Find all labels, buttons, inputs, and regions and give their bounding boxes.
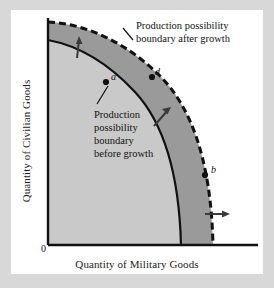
annotation-after-growth: Production possibility boundary after gr… [136, 20, 230, 45]
point-b-label: b [211, 164, 216, 175]
annotation-after-growth-line1: Production possibility [136, 20, 230, 33]
annotation-before-growth-line2: possibility [94, 121, 153, 134]
x-axis-label: Quantity of Military Goods [0, 258, 274, 270]
annotation-before-growth-line4: before growth [94, 147, 153, 160]
point-b-marker [202, 172, 208, 178]
y-axis-label: Quantity of Civilian Goods [20, 41, 32, 241]
origin-label: 0 [41, 243, 46, 254]
leader-line-after-growth [123, 28, 133, 40]
annotation-after-growth-line2: boundary after growth [136, 33, 230, 46]
annotation-before-growth: Production possibility boundary before g… [94, 108, 153, 160]
annotation-before-growth-line3: boundary [94, 134, 153, 147]
ppf-figure: Production possibility boundary after gr… [0, 0, 274, 288]
point-a-marker [103, 79, 109, 85]
point-a-label: a [111, 71, 116, 82]
annotation-before-growth-line1: Production [94, 108, 153, 121]
point-d-label: d [155, 66, 160, 77]
